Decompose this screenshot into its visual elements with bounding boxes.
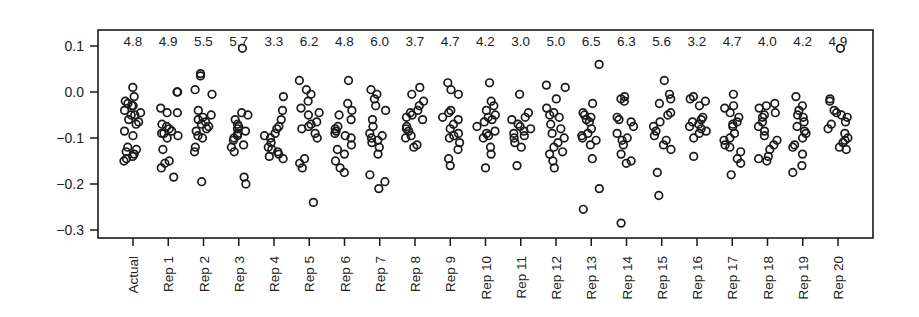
data-point bbox=[696, 102, 704, 110]
y-tick-label: −0.1 bbox=[56, 130, 84, 146]
y-tick-label: 0.1 bbox=[65, 38, 85, 54]
data-point bbox=[513, 162, 521, 170]
data-point bbox=[843, 146, 851, 154]
group-annotation: 4.8 bbox=[335, 34, 354, 49]
group-annotation: 6.0 bbox=[370, 34, 389, 49]
data-point bbox=[617, 219, 625, 227]
x-axis: ActualRep 1Rep 2Rep 3Rep 4Rep 5Rep 6Rep … bbox=[126, 238, 846, 300]
data-point bbox=[655, 192, 663, 200]
series-rep-1 bbox=[157, 88, 182, 181]
series-rep-10 bbox=[473, 79, 499, 172]
data-point bbox=[419, 116, 427, 124]
series-rep-6 bbox=[331, 77, 356, 177]
group-annotation: 4.7 bbox=[723, 34, 742, 49]
data-point bbox=[332, 157, 340, 165]
series-rep-11 bbox=[508, 91, 534, 170]
data-point bbox=[304, 97, 312, 105]
data-point bbox=[170, 173, 178, 181]
data-point bbox=[789, 169, 797, 177]
x-tick-label: Rep 10 bbox=[479, 256, 494, 300]
data-point bbox=[266, 153, 274, 161]
data-point bbox=[553, 95, 561, 103]
group-annotation: 4.2 bbox=[476, 34, 495, 49]
data-point bbox=[793, 123, 801, 131]
group-annotation: 3.0 bbox=[511, 34, 530, 49]
group-annotation: 6.3 bbox=[617, 34, 636, 49]
data-point bbox=[207, 111, 215, 119]
data-point bbox=[589, 155, 597, 163]
data-point bbox=[159, 146, 167, 154]
series-rep-20 bbox=[824, 45, 851, 154]
data-point bbox=[242, 127, 250, 135]
data-point bbox=[129, 132, 137, 140]
y-tick-label: −0.2 bbox=[56, 176, 84, 192]
x-tick-label: Rep 15 bbox=[655, 256, 670, 300]
group-annotation: 6.2 bbox=[300, 34, 319, 49]
series-rep-17 bbox=[720, 91, 744, 179]
data-point bbox=[543, 81, 551, 89]
data-point bbox=[195, 107, 203, 115]
data-point bbox=[366, 130, 374, 138]
series-rep-14 bbox=[613, 93, 637, 227]
x-tick-label: Rep 8 bbox=[408, 256, 423, 292]
data-point bbox=[596, 185, 604, 193]
data-point bbox=[613, 130, 621, 138]
data-point bbox=[198, 178, 206, 186]
data-point bbox=[297, 104, 305, 112]
data-point bbox=[557, 125, 565, 133]
series-rep-8 bbox=[402, 84, 428, 151]
x-tick-label: Rep 19 bbox=[796, 256, 811, 300]
data-point bbox=[375, 185, 383, 193]
data-point bbox=[799, 150, 807, 158]
data-point bbox=[315, 109, 323, 117]
x-tick-label: Rep 16 bbox=[690, 256, 705, 300]
group-annotation: 3.7 bbox=[406, 34, 425, 49]
data-point bbox=[163, 109, 171, 117]
data-point bbox=[548, 130, 556, 138]
group-annotation: 4.0 bbox=[758, 34, 777, 49]
data-point bbox=[208, 91, 216, 99]
data-point bbox=[271, 130, 279, 138]
y-axis: 0.10.0−0.1−0.2−0.3 bbox=[56, 38, 98, 238]
group-annotation: 4.2 bbox=[793, 34, 812, 49]
data-point bbox=[755, 104, 763, 112]
data-point bbox=[789, 143, 797, 151]
data-point bbox=[547, 120, 555, 128]
data-point bbox=[121, 127, 129, 135]
x-tick-label: Rep 7 bbox=[373, 256, 388, 292]
data-point bbox=[366, 171, 374, 179]
data-point bbox=[382, 107, 390, 115]
series-actual bbox=[120, 84, 144, 165]
data-point bbox=[735, 114, 743, 122]
data-point bbox=[589, 100, 597, 108]
data-point bbox=[486, 79, 494, 87]
data-point bbox=[617, 150, 625, 158]
series-rep-16 bbox=[686, 93, 710, 160]
data-point bbox=[280, 93, 288, 101]
data-point bbox=[191, 86, 199, 94]
x-tick-label: Rep 5 bbox=[302, 256, 317, 292]
data-point bbox=[651, 132, 659, 140]
x-tick-label: Rep 11 bbox=[514, 256, 529, 299]
data-point bbox=[763, 157, 771, 165]
data-point bbox=[341, 150, 349, 158]
data-points bbox=[120, 45, 852, 227]
data-point bbox=[654, 169, 662, 177]
data-point bbox=[279, 155, 287, 163]
x-tick-label: Rep 4 bbox=[267, 256, 282, 293]
data-point bbox=[305, 111, 313, 119]
data-point bbox=[279, 107, 287, 115]
group-annotation: 4.7 bbox=[441, 34, 460, 49]
data-point bbox=[690, 153, 698, 161]
y-tick-label: 0.0 bbox=[65, 84, 85, 100]
data-point bbox=[348, 107, 356, 115]
data-point bbox=[620, 141, 628, 149]
data-point bbox=[559, 148, 567, 156]
data-point bbox=[727, 171, 735, 179]
data-point bbox=[580, 206, 588, 214]
data-point bbox=[378, 132, 386, 140]
data-point bbox=[690, 134, 698, 142]
series-rep-12 bbox=[543, 81, 569, 171]
data-point bbox=[772, 109, 780, 117]
series-rep-9 bbox=[439, 79, 464, 169]
